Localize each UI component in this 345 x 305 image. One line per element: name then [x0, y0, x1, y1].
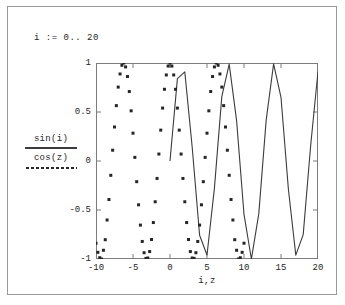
data-point	[124, 65, 127, 68]
x-tick-label: 20	[313, 263, 324, 273]
data-point	[230, 198, 233, 201]
data-point	[235, 249, 238, 252]
y-tick-label: 0	[86, 156, 91, 166]
plot-canvas	[96, 63, 318, 259]
data-point	[107, 198, 110, 201]
data-point	[161, 107, 164, 110]
data-point	[143, 251, 146, 254]
data-point	[187, 238, 190, 241]
data-point	[139, 224, 142, 227]
data-point	[152, 221, 155, 224]
data-point	[96, 242, 98, 245]
data-point	[163, 88, 166, 91]
data-point	[207, 109, 210, 112]
x-tick-label: -5	[128, 263, 139, 273]
data-point	[128, 90, 131, 93]
mathcad-worksheet: i := 0.. 20 sin(i) cos(z) -1-0.500.51 -1…	[7, 6, 337, 295]
data-point	[220, 86, 223, 89]
legend-entry-sin: sin(i)	[23, 133, 79, 149]
data-point	[241, 251, 244, 254]
data-point	[239, 256, 242, 259]
data-point	[102, 249, 105, 252]
data-point	[104, 238, 107, 241]
data-point	[157, 153, 160, 156]
data-point	[228, 174, 231, 177]
data-point	[156, 177, 159, 180]
data-point	[135, 180, 138, 183]
data-point	[213, 65, 216, 68]
data-point	[117, 86, 120, 89]
y-tick-label: -0.5	[69, 205, 91, 215]
data-point	[193, 257, 196, 259]
legend-line-sample-solid	[25, 147, 77, 149]
legend-label-cos: cos(z)	[23, 152, 79, 164]
data-point	[211, 75, 214, 78]
data-point	[194, 251, 197, 254]
plot-legend: sin(i) cos(z)	[23, 133, 79, 170]
data-point	[209, 90, 212, 93]
data-point	[176, 107, 179, 110]
data-point	[154, 200, 157, 203]
data-point	[100, 258, 103, 260]
data-point	[183, 200, 186, 203]
y-tick-label: 0.5	[75, 107, 91, 117]
data-point	[178, 129, 181, 132]
data-point	[150, 238, 153, 241]
data-point	[106, 218, 109, 221]
data-point	[231, 218, 234, 221]
legend-line-sample-dotted	[25, 166, 77, 170]
data-point	[122, 63, 125, 65]
data-point	[133, 156, 136, 159]
data-point	[226, 149, 229, 152]
x-tick-label: 0	[167, 263, 172, 273]
plot-area[interactable]: -1-0.500.51 -10-505101520 i,z	[96, 63, 318, 259]
x-axis-label: i,z	[198, 276, 216, 286]
data-point	[204, 156, 207, 159]
data-point	[111, 149, 114, 152]
data-point	[224, 125, 227, 128]
data-point	[189, 250, 192, 253]
data-point	[96, 251, 99, 254]
data-point	[172, 73, 175, 76]
y-tick-label: 1	[86, 58, 91, 68]
data-point	[170, 65, 173, 68]
data-point	[169, 63, 172, 65]
data-point	[165, 73, 168, 76]
data-point	[126, 75, 129, 78]
data-point	[109, 174, 112, 177]
data-point	[202, 180, 205, 183]
data-point	[174, 88, 177, 91]
data-point	[130, 109, 133, 112]
data-point	[218, 72, 221, 75]
legend-label-sin: sin(i)	[23, 133, 79, 145]
data-point	[115, 104, 118, 107]
data-point	[206, 132, 209, 135]
data-point	[146, 257, 149, 259]
data-point	[119, 72, 122, 75]
legend-entry-cos: cos(z)	[23, 152, 79, 170]
data-point	[180, 153, 183, 156]
data-point	[167, 65, 170, 68]
data-point	[159, 129, 162, 132]
range-definition-expression[interactable]: i := 0.. 20	[34, 33, 99, 43]
data-point	[198, 224, 201, 227]
x-tick-label: 10	[239, 263, 250, 273]
data-point	[196, 240, 199, 243]
data-point	[137, 203, 140, 206]
data-point	[113, 125, 116, 128]
x-tick-label: -10	[88, 263, 104, 273]
series-line-0	[170, 64, 318, 259]
data-point	[185, 221, 188, 224]
data-point	[233, 238, 236, 241]
data-point	[132, 132, 135, 135]
data-point	[243, 242, 246, 245]
data-point	[200, 203, 203, 206]
data-point	[217, 64, 220, 67]
x-tick-label: 15	[276, 263, 287, 273]
data-point	[148, 250, 151, 253]
data-point	[222, 104, 225, 107]
x-tick-label: 5	[204, 263, 209, 273]
data-point	[141, 240, 144, 243]
data-point	[181, 177, 184, 180]
